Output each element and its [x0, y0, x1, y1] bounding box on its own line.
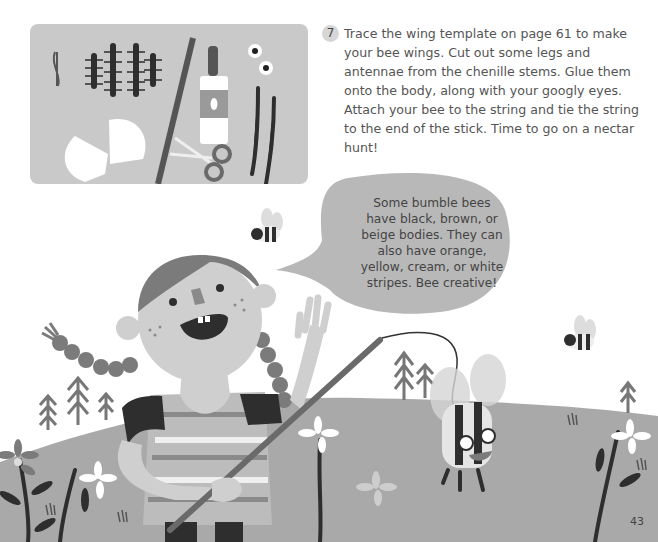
hand-waving: [298, 298, 328, 335]
instruction-text: Trace the wing template on page 61 to ma…: [344, 26, 639, 155]
step-number: 7: [322, 25, 339, 42]
leg-right: [215, 522, 243, 542]
bee-icon: [251, 208, 283, 242]
ear-right: [252, 284, 276, 308]
paper-wings-icon: [65, 119, 146, 182]
instruction-step: 7 Trace the wing template on page 61 to …: [322, 24, 652, 157]
tooth: [205, 316, 210, 322]
braid-left: [52, 335, 138, 377]
bee-icon: [564, 315, 596, 350]
eye-right: [216, 284, 224, 292]
eye-left: [169, 298, 177, 306]
supplies-card: [30, 24, 308, 184]
googly-eyes-icon: [248, 44, 273, 75]
glue-bottle-icon: [200, 46, 228, 144]
string-icon: [54, 52, 59, 86]
tooth: [198, 317, 203, 323]
stick-icon: [158, 38, 193, 184]
page-number: 43: [630, 515, 644, 528]
black-chenille-stems-icon: [252, 88, 274, 184]
scissors-icon: [170, 138, 230, 180]
ear-left: [116, 316, 140, 340]
speech-bubble-text: Some bumble bees have black, brown, or b…: [360, 195, 504, 291]
